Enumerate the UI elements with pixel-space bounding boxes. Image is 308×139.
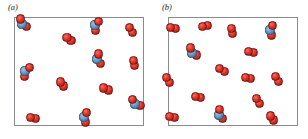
red-atom <box>94 49 103 58</box>
red-atom <box>186 43 195 52</box>
panel-a-label: (a) <box>8 2 18 12</box>
red-atom <box>129 56 138 65</box>
molecular-diagram-figure: (a) (b) <box>0 0 308 139</box>
red-atom <box>165 112 174 121</box>
red-atom <box>191 92 200 101</box>
red-atom <box>94 17 103 26</box>
red-atom <box>62 33 71 42</box>
red-atom <box>16 14 25 23</box>
red-atom <box>99 83 108 92</box>
red-atom <box>241 73 250 82</box>
red-atom <box>56 77 65 86</box>
panel-b-label: (b) <box>162 2 172 12</box>
red-atom <box>227 24 236 33</box>
red-atom <box>244 47 253 56</box>
panel-a-box <box>14 17 144 126</box>
red-atom <box>266 111 275 120</box>
red-atom <box>166 23 175 32</box>
